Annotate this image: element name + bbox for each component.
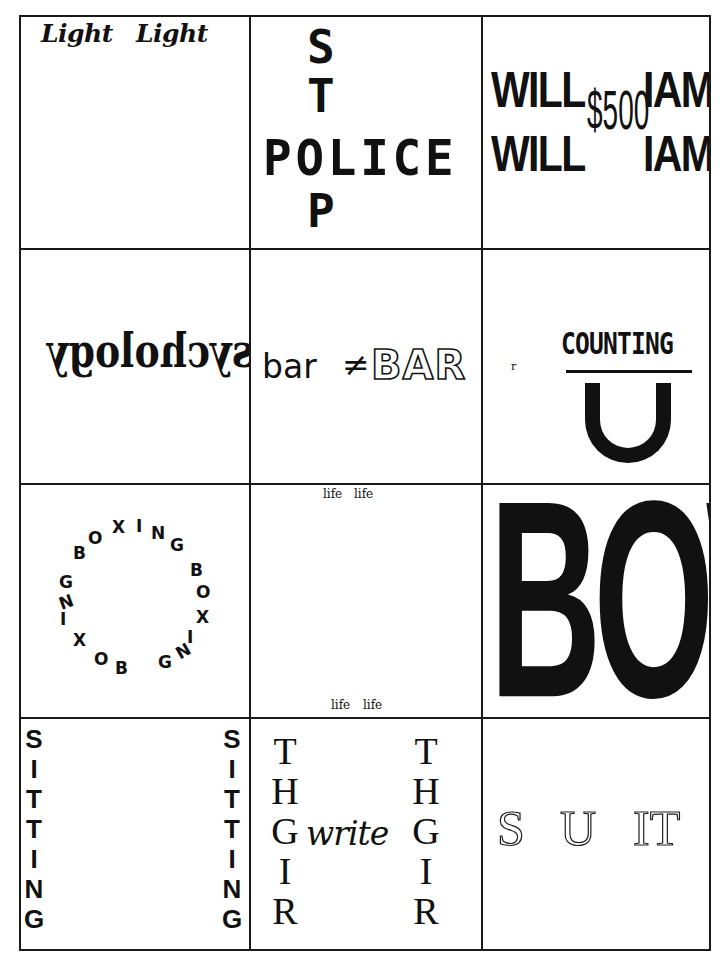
iam-word-2: IAM xyxy=(643,129,709,179)
circle-letter: I xyxy=(187,627,193,647)
circle-letter: X xyxy=(112,517,125,537)
circle-letter: O xyxy=(88,528,102,548)
sitting-letter: I xyxy=(21,844,47,874)
u-letter xyxy=(585,383,671,463)
thgir-letter: G xyxy=(268,811,302,851)
sitting-letter: N xyxy=(21,874,47,904)
suit-part-u: U xyxy=(560,799,596,857)
circle-letter: N xyxy=(151,523,165,543)
circle-letter: I xyxy=(136,516,142,536)
stop-letter-t: T xyxy=(307,73,335,119)
life-top-2: life xyxy=(354,487,373,501)
puzzle-cell-bar-not-equal-bar: bar ≠ BAR xyxy=(251,250,481,483)
counting-word: COUNTING xyxy=(561,326,673,361)
puzzle-cell-psychology-mirrored: Psychology xyxy=(21,250,249,483)
thgir-left-column: T H G I R xyxy=(268,731,302,931)
thgir-letter: I xyxy=(268,851,302,891)
sitting-letter: T xyxy=(219,784,245,814)
thgir-letter: T xyxy=(268,731,302,771)
sitting-letter: S xyxy=(21,724,47,754)
sitting-letter: G xyxy=(219,904,245,934)
circle-letter: B xyxy=(190,560,203,580)
circle-letter: B xyxy=(73,543,86,563)
bar-big-word: BAR xyxy=(371,342,466,388)
thgir-letter: T xyxy=(409,731,443,771)
not-equal-sign: ≠ xyxy=(342,345,370,384)
stop-letter-s: S xyxy=(307,24,335,70)
puzzle-cell-write-right: T H G I R write T H G I R xyxy=(251,719,481,950)
thgir-letter: R xyxy=(409,891,443,931)
marker-r: r xyxy=(511,360,516,373)
fraction-line xyxy=(566,370,692,373)
puzzle-cell-stop-police: S T POLICE P xyxy=(251,17,481,248)
stop-letter-p: P xyxy=(307,188,335,234)
puzzle-cell-light-light: Light Light xyxy=(21,17,249,248)
puzzle-cell-life-life: life life life life xyxy=(251,485,481,717)
circle-letter: O xyxy=(94,649,108,669)
life-bottom-2: life xyxy=(363,698,382,712)
bar-small-word: bar xyxy=(262,347,317,386)
dollar-500: $500 xyxy=(587,77,649,142)
puzzle-cell-will-500-iam: WILL WILL $500 IAM IAM xyxy=(483,17,709,248)
sitting-letter: I xyxy=(219,754,245,784)
circle-letter: X xyxy=(196,607,209,627)
sitting-letter: I xyxy=(219,844,245,874)
suit-part-s: S xyxy=(497,799,525,857)
suit-part-it: IT xyxy=(633,799,680,857)
circle-letter: O xyxy=(196,582,210,602)
sitting-left-column: S I T T I N G xyxy=(21,724,47,934)
thgir-right-column: T H G I R xyxy=(409,731,443,931)
sitting-letter: T xyxy=(21,784,47,814)
thgir-letter: G xyxy=(409,811,443,851)
sitting-letter: S xyxy=(219,724,245,754)
sitting-letter: G xyxy=(21,904,47,934)
puzzle-cell-suit: S U IT xyxy=(483,719,709,950)
life-top-1: life xyxy=(323,487,342,501)
puzzle-cell-counting-over-u: r COUNTING xyxy=(483,250,709,483)
thgir-letter: I xyxy=(409,851,443,891)
circle-letter: G xyxy=(158,652,172,672)
thgir-letter: R xyxy=(268,891,302,931)
circle-letter: G xyxy=(59,572,73,592)
sitting-letter: T xyxy=(21,814,47,844)
circle-letter: X xyxy=(73,630,86,650)
sitting-letter: N xyxy=(219,874,245,904)
sitting-right-column: S I T T I N G xyxy=(219,724,245,934)
circle-letter: G xyxy=(170,535,184,555)
puzzle-cell-sitting: S I T T I N G S I T T I N G xyxy=(21,719,249,950)
thgir-letter: H xyxy=(409,771,443,811)
police-word: POLICE xyxy=(263,129,457,187)
sitting-letter: T xyxy=(219,814,245,844)
psychology-mirrored-word: Psychology xyxy=(47,324,249,378)
puzzle-cell-bowl: BOWL xyxy=(483,485,709,717)
light-word-2: Light xyxy=(136,19,208,48)
sitting-letter: I xyxy=(21,754,47,784)
circle-letter: B xyxy=(115,658,128,678)
iam-word-1: IAM xyxy=(643,65,709,115)
thgir-letter: H xyxy=(268,771,302,811)
puzzle-cell-boxing-circle: B O X I N G B O X I N G B O X I N G xyxy=(21,485,249,717)
will-word-1: WILL xyxy=(491,65,585,115)
life-bottom-1: life xyxy=(331,698,350,712)
light-word-1: Light xyxy=(41,19,113,48)
bowl-word: BOWL xyxy=(489,491,709,707)
will-word-2: WILL xyxy=(491,129,585,179)
write-word: write xyxy=(306,814,388,853)
